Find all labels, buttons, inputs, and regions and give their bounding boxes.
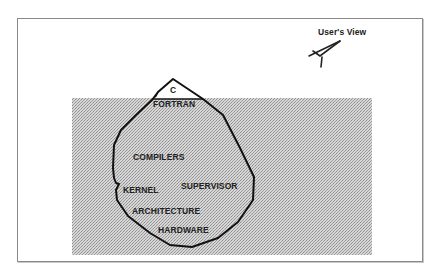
- layer-supervisor: SUPERVISOR: [181, 181, 238, 191]
- layer-fortran: FORTRAN: [153, 99, 195, 109]
- users-view-label: User's View: [318, 27, 366, 37]
- eye-icon: [309, 41, 340, 67]
- layer-hardware: HARDWARE: [158, 225, 209, 235]
- iceberg-diagram: [0, 0, 436, 275]
- layer-compilers: COMPILERS: [133, 152, 184, 162]
- water-region: [72, 98, 372, 255]
- layer-architecture: ARCHITECTURE: [132, 206, 200, 216]
- tip-label-c: C: [170, 85, 176, 95]
- layer-kernel: KERNEL: [123, 185, 159, 195]
